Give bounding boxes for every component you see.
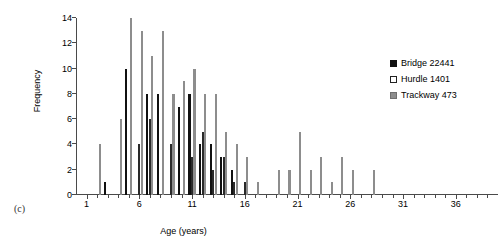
x-tick-mark [414, 195, 415, 198]
y-tick-labels: 02468101214 [48, 18, 72, 195]
legend-item-trackway: Trackway 473 [390, 88, 457, 102]
x-tick-mark [329, 195, 330, 198]
bar [141, 31, 143, 195]
bar [204, 94, 206, 195]
x-tick-mark [308, 195, 309, 198]
bar [130, 18, 132, 195]
y-tick-label: 12 [50, 38, 72, 48]
x-tick-label: 26 [339, 199, 361, 209]
x-tick-mark [224, 195, 225, 198]
x-tick-mark [466, 195, 467, 198]
x-tick-label: 36 [445, 199, 467, 209]
bar [299, 132, 301, 195]
bar [352, 170, 354, 195]
x-axis-label-text: Age (years) [160, 226, 207, 236]
bar [172, 94, 174, 195]
x-tick-mark [477, 195, 478, 198]
bar [331, 182, 333, 195]
x-tick-labels: 16111621263136 [76, 199, 498, 213]
x-tick-mark [255, 195, 256, 198]
bar [246, 157, 248, 195]
x-tick-mark [276, 195, 277, 198]
x-tick-mark [118, 195, 119, 198]
y-axis-label: Frequency [32, 36, 42, 146]
bar [215, 94, 217, 195]
figure-panel: (c) Frequency Age (years) 02468101214 16… [0, 0, 503, 249]
legend-swatch-icon-hurdle [390, 76, 397, 83]
x-tick-label: 21 [287, 199, 309, 209]
y-tick-label: 6 [50, 114, 72, 124]
x-tick-mark [382, 195, 383, 198]
x-tick-mark [435, 195, 436, 198]
legend-swatch-icon-bridge [390, 60, 397, 67]
x-tick-mark [150, 195, 151, 198]
x-tick-mark [97, 195, 98, 198]
bar [183, 81, 185, 195]
bar [99, 144, 101, 195]
x-tick-mark [203, 195, 204, 198]
bar [373, 170, 375, 195]
x-tick-label: 11 [181, 199, 203, 209]
bar [236, 144, 238, 195]
x-tick-mark [424, 195, 425, 198]
y-tick-label: 2 [50, 165, 72, 175]
bar [288, 170, 290, 195]
x-tick-mark [319, 195, 320, 198]
x-axis-label: Age (years) [0, 226, 503, 236]
bar [120, 119, 122, 195]
x-tick-mark [393, 195, 394, 198]
x-tick-mark [340, 195, 341, 198]
x-tick-mark [487, 195, 488, 198]
bar [157, 94, 159, 195]
x-tick-mark [171, 195, 172, 198]
bar-group [76, 18, 498, 195]
bar [341, 157, 343, 195]
x-tick-label: 16 [234, 199, 256, 209]
legend-item-bridge: Bridge 22441 [390, 56, 457, 70]
legend-label-bridge: Bridge 22441 [401, 58, 455, 68]
x-tick-label: 6 [128, 199, 150, 209]
x-tick-mark [182, 195, 183, 198]
bar [257, 182, 259, 195]
bar [104, 182, 106, 195]
x-tick-mark [371, 195, 372, 198]
bar [225, 132, 227, 195]
x-tick-label: 31 [392, 199, 414, 209]
plot-area [76, 18, 498, 195]
bar [162, 31, 164, 195]
y-tick-label: 14 [50, 13, 72, 23]
x-tick-label: 1 [76, 199, 98, 209]
y-tick-label: 0 [50, 190, 72, 200]
x-tick-mark [287, 195, 288, 198]
bar [193, 69, 195, 195]
legend-swatch-icon-trackway [390, 92, 397, 99]
y-tick-label: 10 [50, 64, 72, 74]
bar [320, 157, 322, 195]
x-tick-mark [160, 195, 161, 198]
x-tick-mark [445, 195, 446, 198]
legend-label-trackway: Trackway 473 [401, 90, 457, 100]
x-tick-mark [361, 195, 362, 198]
x-tick-mark [234, 195, 235, 198]
legend-item-hurdle: Hurdle 1401 [390, 72, 457, 86]
bar [278, 170, 280, 195]
y-tick-label: 8 [50, 89, 72, 99]
y-tick-label: 4 [50, 139, 72, 149]
bar [125, 69, 127, 195]
x-tick-mark [108, 195, 109, 198]
bar [151, 56, 153, 195]
legend-label-hurdle: Hurdle 1401 [401, 74, 450, 84]
legend: Bridge 22441 Hurdle 1401 Trackway 473 [390, 56, 457, 104]
bar [178, 107, 180, 196]
x-tick-mark [129, 195, 130, 198]
x-tick-mark [266, 195, 267, 198]
panel-label: (c) [14, 203, 25, 214]
bar [310, 170, 312, 195]
x-tick-mark [213, 195, 214, 198]
